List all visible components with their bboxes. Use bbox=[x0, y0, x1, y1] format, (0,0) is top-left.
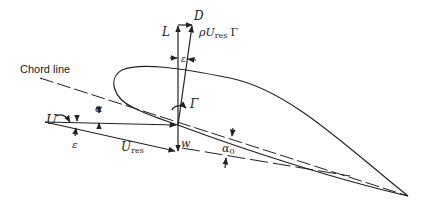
lift-label: L bbox=[161, 25, 170, 39]
drag-label: D bbox=[193, 9, 204, 23]
freestream-label: U bbox=[46, 112, 58, 127]
epsilon-top-right-marker bbox=[188, 59, 196, 60]
zero-lift-line bbox=[182, 148, 350, 176]
alpha-zero-bottom-marker bbox=[225, 158, 226, 168]
freestream-velocity-arrow bbox=[45, 122, 176, 125]
resultant-velocity-arrow bbox=[45, 122, 175, 151]
resultant-velocity-label: Ures bbox=[121, 140, 144, 155]
circulation-label: Γ bbox=[189, 97, 199, 111]
alpha-label: α bbox=[95, 102, 103, 115]
alpha-zero-top-marker bbox=[232, 128, 233, 136]
airfoil-diagram: Chord line L D ρUresΓ ε Γ U α ε Ures w α… bbox=[0, 0, 424, 206]
epsilon-left-label: ε bbox=[72, 139, 77, 150]
airfoil bbox=[114, 66, 408, 196]
epsilon-top-label: ε bbox=[181, 54, 186, 64]
downwash-label: w bbox=[181, 137, 191, 150]
chord-line bbox=[40, 78, 408, 196]
circulation-icon bbox=[172, 106, 186, 110]
resultant-force-label: ρUresΓ bbox=[198, 26, 238, 40]
chord-line-label: Chord line bbox=[20, 63, 70, 75]
freestream-curve-icon bbox=[56, 115, 70, 122]
